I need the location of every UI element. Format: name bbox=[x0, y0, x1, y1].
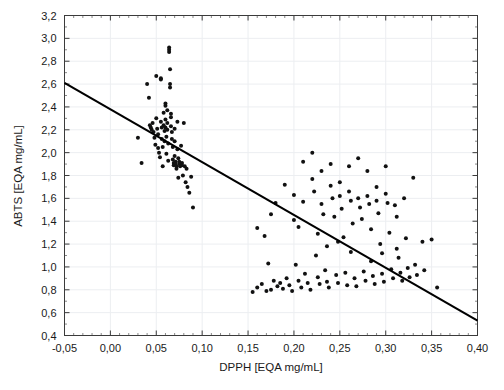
data-point bbox=[371, 274, 375, 278]
data-point bbox=[187, 191, 191, 195]
data-point bbox=[185, 185, 189, 189]
data-point bbox=[176, 176, 180, 180]
data-point bbox=[380, 251, 384, 255]
y-tick-label: 1,8 bbox=[41, 170, 56, 182]
gridlines bbox=[65, 16, 478, 336]
data-point bbox=[292, 218, 296, 222]
data-point bbox=[387, 231, 391, 235]
y-tick-label: 3,2 bbox=[41, 10, 56, 22]
data-point bbox=[174, 167, 178, 171]
data-point bbox=[354, 284, 358, 288]
y-axis-title: ABTS [EQA mg/mL] bbox=[12, 125, 24, 227]
y-tick-label: 1,0 bbox=[41, 261, 56, 273]
data-point bbox=[169, 112, 173, 116]
data-point bbox=[343, 271, 347, 275]
y-tick-label: 2,4 bbox=[41, 101, 56, 113]
data-point bbox=[159, 120, 163, 124]
data-point bbox=[292, 193, 296, 197]
data-point bbox=[384, 192, 388, 196]
data-point bbox=[155, 127, 159, 131]
x-axis-tick-labels: -0,050,000,050,100,150,200,250,300,350,4… bbox=[52, 342, 488, 354]
data-point bbox=[156, 146, 160, 150]
data-point bbox=[316, 275, 320, 279]
data-point bbox=[285, 276, 289, 280]
data-point bbox=[329, 184, 333, 188]
y-tick-label: 2,2 bbox=[41, 124, 56, 136]
scatter-plot-figure: -0,050,000,050,100,150,200,250,300,350,4… bbox=[0, 0, 504, 390]
data-point bbox=[173, 127, 177, 131]
data-point bbox=[266, 262, 270, 266]
data-point bbox=[329, 162, 333, 166]
data-point bbox=[312, 190, 316, 194]
data-point bbox=[375, 199, 379, 203]
y-tick-label: 3,0 bbox=[41, 32, 56, 44]
y-tick-label: 1,2 bbox=[41, 238, 56, 250]
data-point bbox=[290, 289, 294, 293]
data-point bbox=[325, 244, 329, 248]
data-point bbox=[345, 283, 349, 287]
data-point bbox=[415, 273, 419, 277]
data-point bbox=[408, 275, 412, 279]
data-point bbox=[176, 156, 180, 160]
data-point bbox=[318, 282, 322, 286]
data-point bbox=[164, 152, 168, 156]
regression-trendline bbox=[65, 83, 478, 321]
y-tick-label: 1,4 bbox=[41, 215, 56, 227]
data-point bbox=[349, 199, 353, 203]
data-point bbox=[185, 167, 189, 171]
data-point bbox=[170, 130, 174, 134]
data-point bbox=[283, 183, 287, 187]
data-point bbox=[338, 180, 342, 184]
data-point bbox=[303, 272, 307, 276]
data-point bbox=[316, 232, 320, 236]
data-point bbox=[319, 202, 323, 206]
data-point bbox=[165, 108, 169, 112]
data-point bbox=[306, 281, 310, 285]
data-point bbox=[182, 121, 186, 125]
data-point bbox=[184, 180, 188, 184]
data-point bbox=[384, 164, 388, 168]
data-point bbox=[157, 151, 161, 155]
data-point bbox=[393, 203, 397, 207]
data-point bbox=[362, 270, 366, 274]
data-point bbox=[169, 115, 173, 119]
data-point bbox=[411, 176, 415, 180]
data-point bbox=[398, 271, 402, 275]
data-point bbox=[255, 226, 259, 230]
data-point bbox=[281, 287, 285, 291]
data-point bbox=[314, 254, 318, 258]
data-point bbox=[404, 236, 408, 240]
data-point bbox=[349, 250, 353, 254]
x-tick-label: 0,25 bbox=[329, 342, 350, 354]
data-point bbox=[340, 207, 344, 211]
data-point bbox=[168, 82, 172, 86]
data-point bbox=[260, 282, 264, 286]
data-point bbox=[360, 217, 364, 221]
data-point bbox=[165, 128, 169, 132]
data-point bbox=[325, 280, 329, 284]
data-point bbox=[272, 279, 276, 283]
data-point bbox=[147, 96, 151, 100]
data-point bbox=[413, 263, 417, 267]
data-point bbox=[435, 286, 439, 290]
x-tick-label: 0,05 bbox=[146, 342, 167, 354]
data-point bbox=[165, 121, 169, 125]
y-tick-label: 0,8 bbox=[41, 284, 56, 296]
data-point bbox=[347, 190, 351, 194]
data-point bbox=[380, 272, 384, 276]
data-point bbox=[275, 284, 279, 288]
x-tick-label: 0,30 bbox=[375, 342, 396, 354]
data-point bbox=[330, 196, 334, 200]
y-tick-label: 0,6 bbox=[41, 307, 56, 319]
x-tick-label: 0,20 bbox=[283, 342, 304, 354]
data-point bbox=[269, 288, 273, 292]
data-point bbox=[319, 169, 323, 173]
data-point bbox=[323, 268, 327, 272]
data-point bbox=[269, 212, 273, 216]
data-point bbox=[376, 211, 380, 215]
data-point bbox=[158, 155, 162, 159]
y-tick-label: 2,8 bbox=[41, 55, 56, 67]
data-point bbox=[338, 194, 342, 198]
data-point bbox=[264, 289, 268, 293]
data-point bbox=[153, 143, 157, 147]
